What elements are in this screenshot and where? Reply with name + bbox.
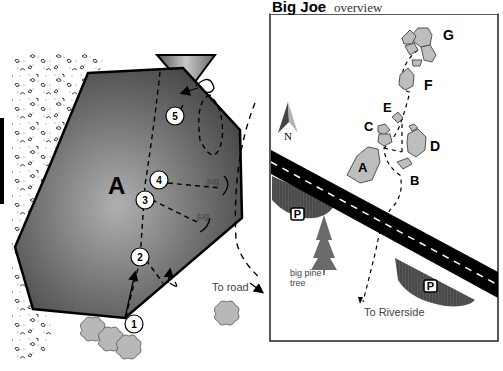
page-edge-bar — [0, 118, 4, 204]
compass-label: N — [284, 130, 292, 142]
jug-label-2: jug — [196, 211, 209, 221]
boulder-e-label: E — [383, 100, 392, 115]
bush-icon — [116, 335, 141, 359]
route-number: 4 — [156, 175, 162, 186]
route-number: 1 — [131, 319, 137, 330]
boulder-a-label: A — [108, 172, 125, 199]
route-number: 2 — [137, 252, 143, 263]
route-marker-2[interactable]: 2 — [131, 248, 149, 266]
route-number: 3 — [142, 195, 148, 206]
route-number: 5 — [172, 111, 178, 122]
parking-label: P — [294, 208, 301, 220]
bush-icon — [214, 301, 239, 325]
arrow-to-road — [250, 283, 262, 292]
boulder-g-label: G — [443, 27, 454, 43]
tree-label: big pine — [290, 268, 322, 278]
parking-sign-1: P — [291, 208, 304, 220]
route-marker-4[interactable]: 4 — [150, 171, 168, 189]
to-road-label: To road — [212, 281, 249, 293]
route-marker-1[interactable]: 1 — [125, 315, 143, 333]
jug-label-1: jug — [206, 176, 219, 186]
tree-label-2: tree — [290, 278, 306, 288]
boulder-f-label: F — [424, 77, 433, 93]
overview-title: Big Joe — [272, 0, 326, 15]
to-riverside-label: To Riverside — [364, 306, 425, 318]
detail-topo: 5 4 3 2 1 A jug jug To road — [0, 54, 262, 360]
boulder-d-label: D — [430, 138, 440, 154]
parking-sign-2: P — [424, 280, 437, 292]
parking-label: P — [427, 280, 434, 292]
climbing-topo-map: 5 4 3 2 1 A jug jug To road — [0, 0, 503, 371]
hook-route-2 — [170, 282, 177, 286]
boulder-a-overview-label: A — [358, 160, 368, 175]
overview-map: Big Joe overview P P big pine tree — [270, 0, 498, 341]
route-marker-5[interactable]: 5 — [166, 107, 184, 125]
boulder-b-label: B — [410, 173, 419, 188]
overview-subtitle: overview — [334, 0, 383, 15]
boulder-g-shape[interactable] — [412, 60, 422, 66]
route-marker-3[interactable]: 3 — [136, 191, 154, 209]
boulder-c-label: C — [364, 119, 374, 134]
